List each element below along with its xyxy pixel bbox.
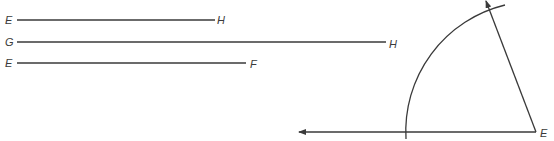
segment-gh: G H	[5, 36, 397, 50]
segment-eh: E H	[5, 14, 225, 26]
label-h-end: H	[217, 14, 225, 26]
construction-arc	[406, 5, 505, 139]
construction-diagram: E H G H E F E	[0, 0, 554, 141]
label-vertex-e: E	[540, 127, 548, 139]
label-g-start: G	[5, 36, 14, 48]
slanted-ray	[486, 1, 536, 132]
label-e-start: E	[5, 14, 13, 26]
angle-construction: E	[299, 1, 548, 139]
segment-ef: E F	[5, 57, 258, 70]
label-f-end: F	[250, 58, 258, 70]
label-e-start: E	[5, 57, 13, 69]
label-h-end: H	[389, 38, 397, 50]
